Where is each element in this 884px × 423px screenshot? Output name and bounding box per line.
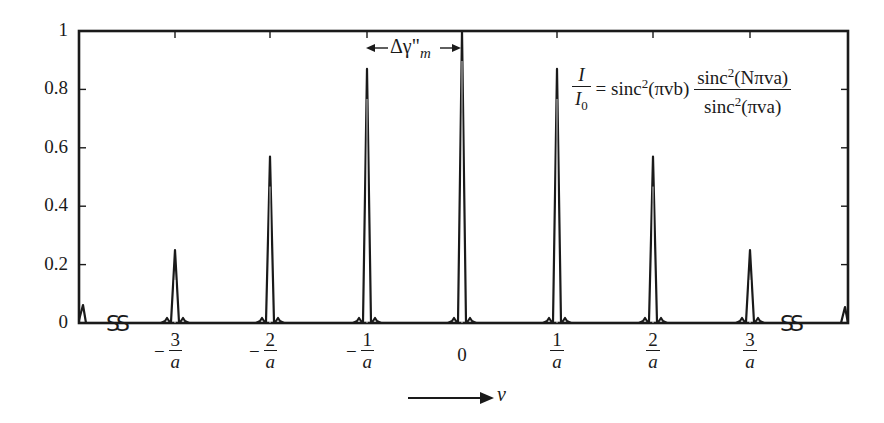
y-tick-label: 0.4 xyxy=(8,194,68,216)
peak-width-annotation: Δγ"m xyxy=(390,35,431,62)
x-tick-label-2: 2a xyxy=(618,330,688,373)
x-tick-label-minus-1: −1a xyxy=(325,330,395,373)
x-tick-label-3: 3a xyxy=(715,330,785,373)
y-tick-label: 1 xyxy=(8,19,68,41)
y-tick-label: 0 xyxy=(8,311,68,333)
intensity-formula: I I0 = sinc2(πvb) sinc2(Nπva) sinc2(πva) xyxy=(572,62,791,120)
x-tick-label-minus-2: −2a xyxy=(228,330,298,373)
x-tick-label-1: 1a xyxy=(522,330,592,373)
y-tick-label: 0.6 xyxy=(8,136,68,158)
formula-lhs: I I0 xyxy=(572,64,591,118)
x-tick-label-minus-3: −3a xyxy=(133,330,203,373)
svg-text:SS: SS xyxy=(106,311,129,336)
y-tick-label: 0.8 xyxy=(8,77,68,99)
x-tick-label-zero: 0 xyxy=(427,334,497,376)
y-tick-label: 0.2 xyxy=(8,253,68,275)
x-axis-variable-label: v xyxy=(497,383,506,406)
formula-rhs-fraction: sinc2(Nπva) sinc2(πva) xyxy=(694,62,791,120)
